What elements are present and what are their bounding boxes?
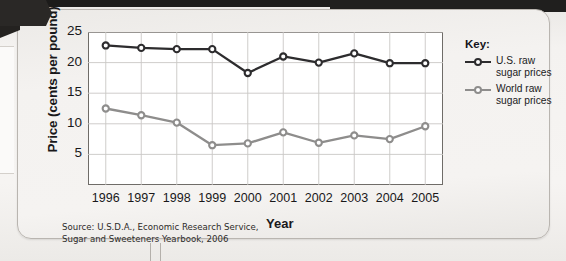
legend-marker-icon bbox=[465, 84, 491, 96]
data-series-layer bbox=[88, 32, 443, 185]
legend-entry: World rawsugar prices bbox=[465, 83, 565, 106]
legend-entry-label-line-2: sugar prices bbox=[496, 67, 552, 79]
legend-entry-label: World rawsugar prices bbox=[496, 83, 552, 106]
legend: Key: U.S. rawsugar pricesWorld rawsugar … bbox=[465, 38, 565, 111]
source-note: Source: U.S.D.A., Economic Research Serv… bbox=[62, 222, 302, 245]
legend-entries: U.S. rawsugar pricesWorld rawsugar price… bbox=[465, 55, 565, 106]
legend-entry-label-line-1: World raw bbox=[496, 83, 552, 95]
page-binding-mark bbox=[150, 243, 161, 261]
legend-entry-label: U.S. rawsugar prices bbox=[496, 55, 552, 78]
legend-entry-label-line-1: U.S. raw bbox=[496, 55, 552, 67]
x-tick-label: 2005 bbox=[403, 191, 447, 205]
legend-entry-label-line-2: sugar prices bbox=[496, 95, 552, 107]
figure-card: 510152025 199619971998199920002001200220… bbox=[17, 9, 550, 239]
legend-entry: U.S. rawsugar prices bbox=[465, 55, 565, 78]
legend-marker-icon bbox=[465, 56, 491, 68]
source-note-line-2: Sugar and Sweeteners Yearbook, 2006 bbox=[62, 234, 302, 246]
page-edge-left bbox=[0, 46, 14, 174]
legend-title: Key: bbox=[465, 38, 565, 50]
source-note-line-1: Source: U.S.D.A., Economic Research Serv… bbox=[62, 222, 302, 234]
corner-arrow-icon bbox=[0, 0, 52, 30]
